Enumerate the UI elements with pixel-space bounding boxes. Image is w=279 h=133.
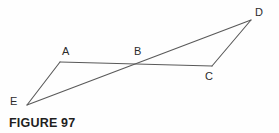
vertex-label-a: A: [62, 46, 69, 57]
figure-caption: FIGURE 97: [9, 116, 75, 130]
figure-container: A B C D E FIGURE 97: [0, 0, 279, 133]
vertex-label-e: E: [10, 96, 17, 107]
vertex-label-c: C: [205, 71, 213, 82]
vertex-label-b: B: [134, 46, 141, 57]
vertex-label-d: D: [255, 7, 263, 18]
geometry-drawing: [0, 0, 279, 133]
